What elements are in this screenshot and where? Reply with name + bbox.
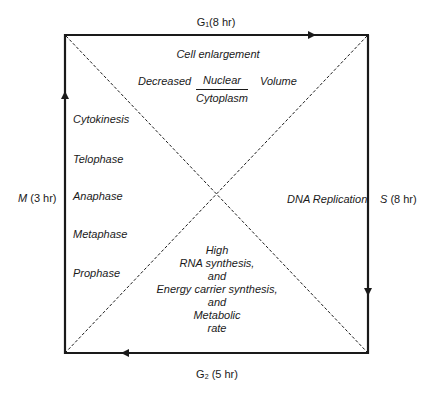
bottom-line: and	[156, 296, 277, 309]
arrow-down-icon	[364, 288, 372, 296]
dna-replication-text: DNA Replication	[287, 193, 367, 206]
g2-label: G2 (5 hr)	[196, 368, 238, 383]
stage-telophase: Telophase	[73, 153, 123, 166]
bottom-line: RNA synthesis,	[156, 257, 277, 270]
arrow-left-icon	[121, 349, 129, 357]
bottom-line: and	[156, 270, 277, 283]
arrow-right-icon	[308, 31, 316, 39]
stage-metaphase: Metaphase	[73, 228, 127, 241]
cell-enlargement-text: Cell enlargement	[176, 48, 259, 61]
m-label: M (3 hr)	[18, 192, 57, 205]
stage-anaphase: Anaphase	[73, 190, 123, 203]
stage-cytokinesis: Cytokinesis	[73, 113, 129, 126]
nuclear-cytoplasm-fraction: Nuclear Cytoplasm	[196, 74, 248, 105]
bottom-line: Metabolic	[156, 309, 277, 322]
decreased-text: Decreased	[138, 75, 191, 88]
volume-text: Volume	[260, 75, 297, 88]
stage-prophase: Prophase	[73, 267, 120, 280]
arrow-up-icon	[61, 91, 69, 99]
bottom-line: rate	[156, 322, 277, 335]
bottom-line: Energy carrier synthesis,	[156, 283, 277, 296]
bottom-line: High	[156, 244, 277, 257]
fraction-numerator: Nuclear	[196, 74, 248, 90]
g2-activity-text: High RNA synthesis, and Energy carrier s…	[156, 244, 277, 335]
fraction-denominator: Cytoplasm	[196, 90, 248, 105]
g1-label: G1(8 hr)	[197, 16, 236, 31]
s-label: S (8 hr)	[380, 193, 417, 206]
